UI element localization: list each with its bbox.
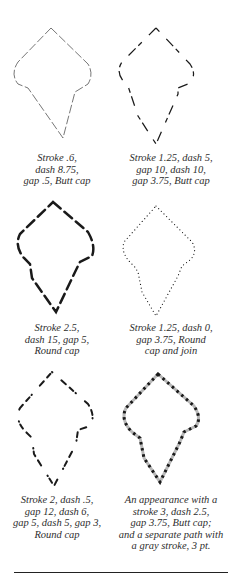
dashed-shape-1 [10, 24, 104, 144]
caption-3: Stroke 2.5, dash 15, gap 5, Round cap [0, 322, 114, 357]
caption-6: An appearance with a stroke 3, dash 2.5,… [114, 494, 228, 552]
example-cell-5: Stroke 2, dash .5, gap 12, dash 6, gap 5… [0, 360, 114, 572]
example-cell-4: Stroke 1.25, dash 0, gap 3.75, Round cap… [114, 190, 228, 360]
gray-underlay-dashed-shape-6 [116, 368, 210, 492]
dashed-shape-3 [10, 198, 104, 320]
dashed-shape-2 [114, 24, 208, 149]
caption-5: Stroke 2, dash .5, gap 12, dash 6, gap 5… [0, 494, 114, 540]
caption-2: Stroke 1.25, dash 5, gap 10, dash 10, ga… [114, 152, 228, 187]
example-cell-6: An appearance with a stroke 3, dash 2.5,… [114, 360, 228, 572]
example-cell-3: Stroke 2.5, dash 15, gap 5, Round cap [0, 190, 114, 360]
dotted-shape-4 [116, 202, 210, 322]
caption-1: Stroke .6, dash 8.75, gap .5, Butt cap [0, 152, 114, 187]
bottom-rule-divider [14, 572, 228, 573]
dashed-shape-5 [8, 368, 102, 492]
example-cell-2: Stroke 1.25, dash 5, gap 10, dash 10, ga… [114, 0, 228, 190]
example-cell-1: Stroke .6, dash 8.75, gap .5, Butt cap [0, 0, 114, 190]
caption-4: Stroke 1.25, dash 0, gap 3.75, Round cap… [114, 322, 228, 357]
